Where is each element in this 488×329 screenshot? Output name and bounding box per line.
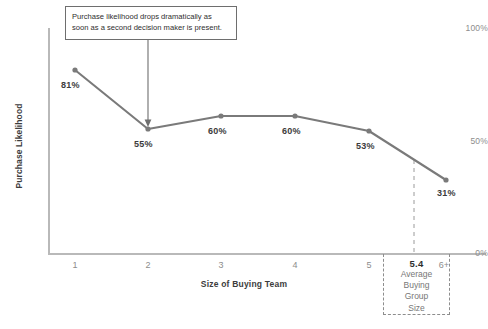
data-markers	[72, 67, 448, 182]
data-point-4	[292, 113, 297, 118]
data-point-1	[72, 67, 77, 72]
data-label-5: 53%	[356, 141, 375, 151]
data-label-2: 55%	[134, 139, 153, 149]
chart-container: 100% 50% 0% Purchase Likelihood 1 2 3 4 …	[0, 0, 488, 329]
data-label-3: 60%	[208, 126, 227, 136]
average-group-size-callout: 5.4 Average Buying Group Size	[383, 254, 450, 315]
data-point-5	[366, 128, 371, 133]
data-label-1: 81%	[61, 80, 80, 90]
average-group-size-value: 5.4	[384, 258, 449, 269]
average-group-size-line-4: Size	[384, 303, 449, 314]
data-point-2	[145, 126, 150, 131]
annotation-arrow	[145, 36, 152, 127]
average-group-size-line-1: Average	[384, 269, 449, 280]
annotation-callout: Purchase likelihood drops dramatically a…	[65, 6, 237, 40]
data-point-6plus	[443, 177, 448, 182]
average-group-size-line-2: Buying	[384, 280, 449, 291]
data-line	[75, 70, 446, 180]
average-group-size-line-3: Group	[384, 291, 449, 302]
data-point-3	[218, 113, 223, 118]
data-label-6plus: 31%	[437, 188, 456, 198]
annotation-text: Purchase likelihood drops dramatically a…	[72, 12, 222, 32]
data-label-4: 60%	[282, 126, 301, 136]
